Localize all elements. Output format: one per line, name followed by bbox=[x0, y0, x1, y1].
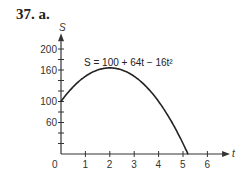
svg-text:S: S bbox=[59, 22, 66, 33]
svg-text:200: 200 bbox=[40, 44, 57, 55]
svg-text:60: 60 bbox=[46, 117, 58, 128]
curve bbox=[61, 68, 188, 154]
svg-text:1: 1 bbox=[82, 159, 88, 170]
equation-label: S = 100 + 64t − 16t² bbox=[84, 57, 173, 68]
svg-text:4: 4 bbox=[156, 159, 162, 170]
axes: tS bbox=[58, 22, 236, 159]
svg-text:160: 160 bbox=[40, 65, 57, 76]
svg-text:6: 6 bbox=[204, 159, 210, 170]
svg-text:2: 2 bbox=[107, 159, 113, 170]
svg-text:5: 5 bbox=[180, 159, 186, 170]
svg-text:t: t bbox=[232, 148, 236, 159]
chart: tS 012345660100160200 S = 100 + 64t − 16… bbox=[0, 0, 236, 180]
svg-text:3: 3 bbox=[131, 159, 137, 170]
svg-text:0: 0 bbox=[52, 159, 58, 170]
svg-text:100: 100 bbox=[40, 96, 57, 107]
